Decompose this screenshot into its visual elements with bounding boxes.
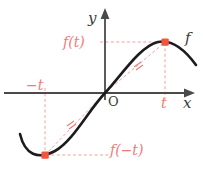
point-neg-t-marker — [41, 151, 48, 158]
f-of-negative-t-label: f(−t) — [110, 143, 143, 157]
congruence-mark-lower — [67, 121, 76, 129]
function-name-label: f — [185, 31, 191, 46]
y-axis-arrowhead — [101, 8, 110, 19]
figure-canvas: y x O f f(t) f(−t) −t t — [0, 0, 203, 173]
congruence-mark-upper — [134, 62, 143, 70]
f-of-t-label: f(t) — [63, 35, 85, 49]
y-axis-label: y — [88, 11, 96, 26]
origin-label: O — [108, 95, 119, 108]
x-axis-label: x — [183, 96, 191, 111]
point-t-marker — [161, 38, 168, 45]
negative-t-label: −t — [26, 78, 43, 92]
diagonal-radius-upper — [107, 44, 163, 91]
t-label: t — [161, 96, 167, 110]
